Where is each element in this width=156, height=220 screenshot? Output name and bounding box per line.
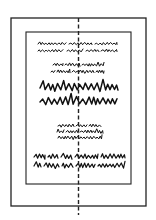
scribbled-text-line <box>51 69 104 73</box>
text-block-5 <box>34 153 125 168</box>
scribbled-text-line <box>38 49 117 52</box>
text-block-1 <box>38 42 117 52</box>
scribbled-text-line <box>57 129 103 134</box>
scribbled-text-line <box>34 161 125 168</box>
page-layout-diagram <box>0 0 156 220</box>
text-blocks <box>34 42 125 168</box>
text-block-2 <box>51 62 104 73</box>
text-block-4 <box>57 124 103 140</box>
scribbled-text-line <box>58 135 102 140</box>
scribbled-text-line <box>58 124 101 127</box>
scribbled-text-line <box>34 153 125 159</box>
scribbled-text-line <box>38 42 117 45</box>
